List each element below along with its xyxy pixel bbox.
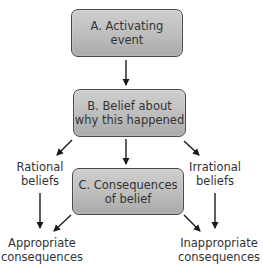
label-appropriate-consequences: Appropriate consequences (0, 236, 84, 264)
box-belief-label: B. Belief about why this happened (75, 99, 184, 127)
arrow-c-to-appropriate (54, 215, 71, 231)
label-rational-beliefs: Rational beliefs (8, 160, 72, 188)
arrow-c-to-inappropriate (184, 215, 200, 231)
box-activating-event-label: A. Activating event (91, 19, 164, 47)
abc-belief-diagram: A. Activating event B. Belief about why … (0, 0, 263, 271)
box-consequences-label: C. Consequences of belief (78, 178, 177, 206)
box-activating-event: A. Activating event (71, 9, 183, 57)
label-inappropriate-consequences: Inappropriate consequences (175, 236, 263, 264)
label-irrational-beliefs: Irrational beliefs (183, 160, 247, 188)
box-consequences: C. Consequences of belief (72, 168, 184, 215)
box-belief: B. Belief about why this happened (73, 89, 186, 137)
arrow-b-to-rational (57, 140, 72, 155)
arrow-b-to-irrational (184, 141, 199, 155)
